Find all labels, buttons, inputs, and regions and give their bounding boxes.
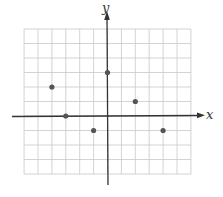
x-axis-label: x <box>206 107 214 122</box>
axes: x y <box>12 0 214 185</box>
data-point <box>105 70 110 75</box>
data-point <box>161 128 166 133</box>
data-point <box>133 99 138 104</box>
data-point <box>91 128 96 133</box>
scatter-plot: x y <box>0 0 223 197</box>
data-point <box>49 84 54 89</box>
data-point <box>63 113 68 118</box>
y-axis-label: y <box>101 0 110 15</box>
x-axis-arrow-icon <box>197 113 205 119</box>
